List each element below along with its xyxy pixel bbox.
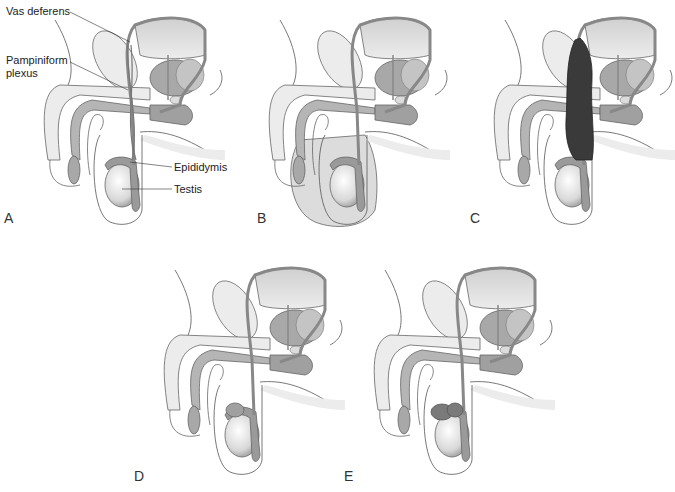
panel-e-epididymal-cyst: E [330, 250, 555, 490]
panel-letter-a: A [4, 210, 13, 226]
anatomy-illustration-varicocele [450, 0, 675, 240]
panel-b-hydrocele: B [225, 0, 450, 240]
label-epididymis: Epididymis [174, 161, 227, 174]
anatomy-illustration-spermatocele [120, 250, 345, 490]
panel-d-spermatocele: D [120, 250, 345, 490]
panel-a-normal: Vas deferens Pampiniform plexus Epididym… [0, 0, 225, 240]
label-pampiniform-plexus-line1: Pampiniform [6, 54, 68, 67]
label-pampiniform-plexus-line2: plexus [6, 67, 38, 80]
panel-letter-d: D [134, 468, 144, 484]
panel-letter-b: B [257, 210, 266, 226]
panel-letter-e: E [344, 468, 353, 484]
anatomy-illustration-normal [0, 0, 225, 240]
anatomy-illustration-hydrocele [225, 0, 450, 240]
label-vas-deferens: Vas deferens [6, 5, 70, 18]
anatomy-illustration-epididymal-cyst [330, 250, 555, 490]
label-testis: Testis [174, 183, 202, 196]
panel-c-varicocele: C [450, 0, 675, 240]
panel-letter-c: C [470, 210, 480, 226]
